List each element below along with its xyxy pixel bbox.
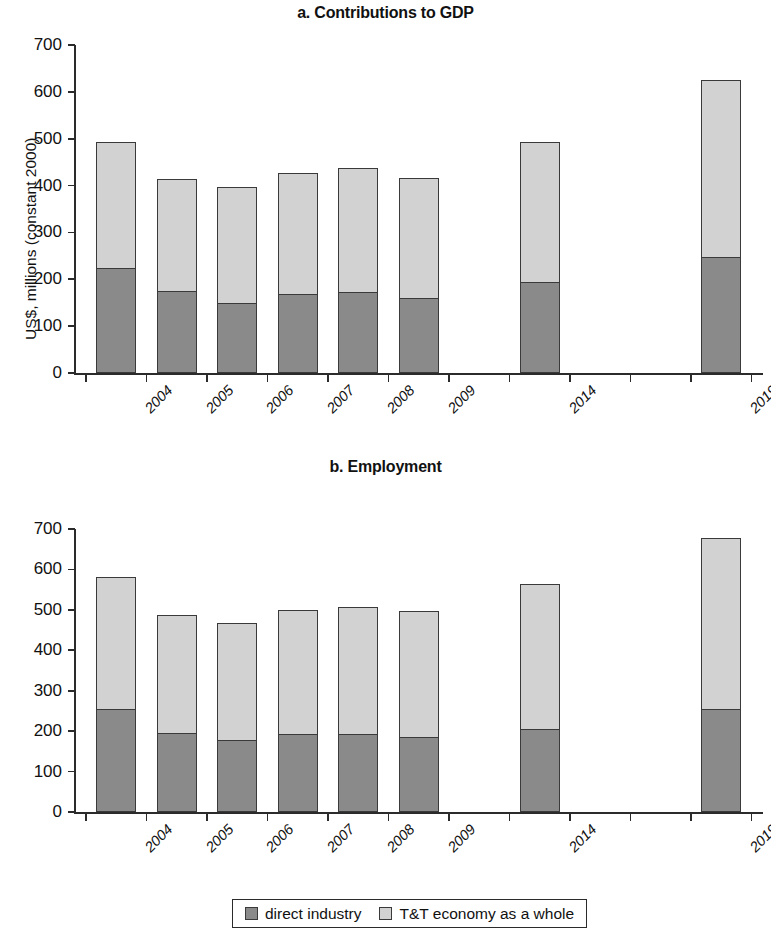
x-axis-tick <box>85 813 87 821</box>
y-axis-tick <box>68 185 75 187</box>
y-axis-tick <box>68 690 75 692</box>
bar-segment-tt-economy <box>217 187 257 304</box>
y-axis-tick <box>68 138 75 140</box>
bar-segment-direct-industry <box>520 282 560 373</box>
x-axis-tick <box>206 813 208 821</box>
bar-segment-direct-industry <box>96 268 136 372</box>
bar-segment-direct-industry <box>278 294 318 373</box>
y-axis-tick <box>68 278 75 280</box>
x-axis-tick <box>690 374 692 382</box>
y-axis-tick-label: 600 <box>16 83 62 100</box>
y-axis-tick-label: 300 <box>16 682 62 699</box>
bar-2019 <box>701 80 741 373</box>
bar-2006 <box>217 187 257 373</box>
bar-segment-tt-economy <box>520 142 560 283</box>
x-axis-tick <box>327 374 329 382</box>
y-axis-tick-label: 300 <box>16 223 62 240</box>
bar-segment-tt-economy <box>399 178 439 299</box>
y-axis-tick-label: 200 <box>16 722 62 739</box>
bar-segment-tt-economy <box>278 173 318 296</box>
y-axis-tick-label: 100 <box>16 763 62 780</box>
figure: a. Contributions to GDP US$, millions (c… <box>0 0 771 931</box>
legend-label: direct industry <box>265 905 361 923</box>
y-axis-tick <box>68 44 75 46</box>
x-axis-tick <box>630 374 632 382</box>
x-axis-tick <box>509 813 511 821</box>
bar-2005 <box>157 179 197 373</box>
legend-item-tt-economy: T&T economy as a whole <box>379 905 574 923</box>
bar-segment-direct-industry <box>701 709 741 812</box>
y-axis-line <box>74 45 76 373</box>
x-axis-tick <box>448 813 450 821</box>
x-axis-tick <box>509 374 511 382</box>
y-axis-tick <box>68 730 75 732</box>
y-axis-tick <box>68 372 75 374</box>
bar-segment-direct-industry <box>701 257 741 373</box>
x-axis-tick <box>388 813 390 821</box>
bar-segment-tt-economy <box>338 168 378 294</box>
bar-segment-tt-economy <box>157 179 197 292</box>
y-axis-tick <box>68 771 75 773</box>
bar-2004 <box>96 577 136 812</box>
bar-segment-direct-industry <box>338 734 378 812</box>
y-axis-tick <box>68 325 75 327</box>
y-axis-tick-label: 500 <box>16 601 62 618</box>
panel-b-title: b. Employment <box>0 458 771 476</box>
bar-2008 <box>338 168 378 373</box>
y-axis-tick <box>68 232 75 234</box>
y-axis-tick-label: 100 <box>16 317 62 334</box>
y-axis-line <box>74 529 76 812</box>
y-axis-tick <box>68 811 75 813</box>
x-axis-tick <box>388 374 390 382</box>
x-axis-tick <box>448 374 450 382</box>
bar-2009 <box>399 611 439 812</box>
x-axis-tick <box>146 374 148 382</box>
y-axis-tick-label: 700 <box>16 520 62 537</box>
x-axis-line <box>74 812 763 814</box>
y-axis-tick <box>68 649 75 651</box>
bar-segment-tt-economy <box>399 611 439 738</box>
bar-segment-direct-industry <box>278 734 318 812</box>
legend-swatch-icon <box>245 907 258 920</box>
bar-segment-direct-industry <box>96 709 136 812</box>
bar-2009 <box>399 178 439 373</box>
y-axis-tick <box>68 528 75 530</box>
panel-a-title: a. Contributions to GDP <box>0 4 771 22</box>
x-axis-tick <box>751 374 753 382</box>
y-axis-tick <box>68 91 75 93</box>
x-axis-tick <box>751 813 753 821</box>
bar-segment-tt-economy <box>96 142 136 269</box>
x-axis-tick <box>569 813 571 821</box>
x-axis-tick <box>569 374 571 382</box>
x-axis-line <box>74 373 763 375</box>
bar-segment-direct-industry <box>217 303 257 373</box>
y-axis-tick <box>68 609 75 611</box>
legend-swatch-icon <box>379 907 392 920</box>
x-axis-tick <box>206 374 208 382</box>
bar-segment-tt-economy <box>217 623 257 742</box>
bar-segment-direct-industry <box>157 733 197 812</box>
y-axis-tick-label: 700 <box>16 36 62 53</box>
y-axis-tick <box>68 569 75 571</box>
bar-2007 <box>278 610 318 812</box>
bar-2007 <box>278 173 318 373</box>
bar-2014 <box>520 142 560 373</box>
bar-2008 <box>338 607 378 812</box>
bar-segment-tt-economy <box>338 607 378 736</box>
bar-2019 <box>701 538 741 812</box>
x-axis-tick <box>690 813 692 821</box>
bar-segment-tt-economy <box>278 610 318 735</box>
bar-segment-direct-industry <box>338 292 378 373</box>
bar-segment-tt-economy <box>520 584 560 730</box>
y-axis-tick-label: 200 <box>16 270 62 287</box>
bar-segment-direct-industry <box>399 298 439 373</box>
x-axis-tick <box>146 813 148 821</box>
legend-item-direct-industry: direct industry <box>245 905 361 923</box>
bar-segment-direct-industry <box>520 729 560 812</box>
chart-legend: direct industryT&T economy as a whole <box>232 899 587 928</box>
y-axis-tick-label: 500 <box>16 130 62 147</box>
bar-segment-tt-economy <box>701 538 741 710</box>
y-axis-tick-label: 400 <box>16 177 62 194</box>
bar-2004 <box>96 142 136 373</box>
x-axis-tick <box>327 813 329 821</box>
